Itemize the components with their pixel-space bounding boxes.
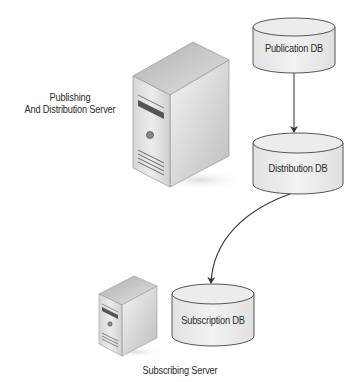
subscribing-server-label: Subscribing Server [132,364,229,376]
publishing-server-icon [133,42,245,190]
publishing-server-label: Publishing And Distribution Server [17,91,123,115]
publication-db-label: Publication DB [258,42,330,54]
subscription-db-label: Subscription DB [177,314,249,326]
publishing-server-label-line1: Publishing [17,91,123,103]
distribution-db-label: Distribution DB [258,162,337,174]
arrow-distribution-to-subscription [211,194,290,283]
publishing-server-label-line2: And Distribution Server [17,103,123,115]
subscribing-server-icon [99,276,163,357]
